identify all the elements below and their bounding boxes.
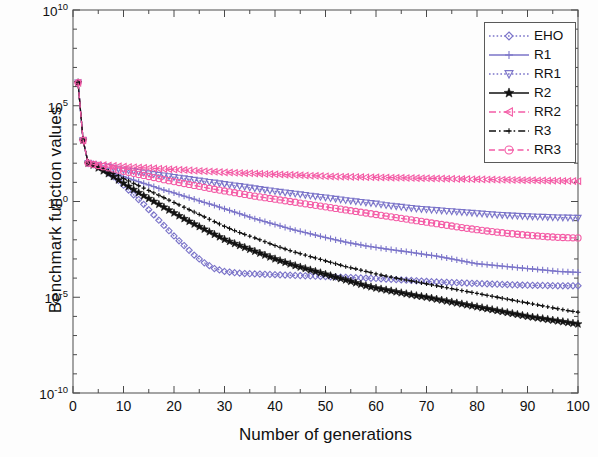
data-marker: [354, 267, 358, 271]
legend-item-rr2[interactable]: RR2: [487, 102, 573, 121]
data-marker: [500, 296, 504, 300]
data-marker: [232, 228, 236, 232]
data-marker: [485, 293, 489, 297]
data-marker: [338, 238, 344, 244]
data-marker: [297, 228, 303, 234]
legend-sample-r1: [487, 46, 531, 64]
data-marker: [343, 239, 349, 245]
data-marker: [413, 250, 419, 256]
x-tick-label: 20: [166, 398, 182, 414]
x-tick-label: 30: [217, 398, 233, 414]
data-marker: [146, 207, 152, 213]
data-marker: [182, 205, 186, 209]
data-marker: [186, 195, 192, 201]
data-marker: [292, 227, 298, 233]
data-marker: [258, 238, 262, 242]
data-marker: [192, 210, 196, 214]
data-marker: [434, 253, 440, 259]
data-marker: [358, 242, 364, 248]
data-marker: [460, 288, 464, 292]
data-marker: [293, 250, 297, 254]
data-marker: [505, 297, 509, 301]
data-marker: [388, 247, 394, 253]
data-marker: [439, 254, 445, 260]
legend-label: RR1: [534, 67, 561, 81]
legend-label: R1: [534, 48, 551, 62]
data-marker: [475, 291, 479, 295]
data-marker: [449, 256, 455, 262]
data-marker: [373, 244, 379, 250]
data-marker: [455, 287, 459, 291]
data-marker: [166, 188, 172, 194]
data-marker: [383, 246, 389, 252]
data-marker: [465, 289, 469, 293]
data-marker: [272, 221, 278, 227]
y-tick-label: 105: [48, 97, 68, 115]
x-axis-label: Number of generations: [73, 425, 578, 445]
data-marker: [490, 294, 494, 298]
data-marker: [307, 231, 313, 237]
legend-sample-r2: [487, 84, 531, 102]
chart-legend: EHOR1RR1R2RR2R3RR3: [484, 22, 576, 163]
data-marker: [278, 245, 282, 249]
y-tick-label: 10-5: [45, 288, 68, 306]
data-marker: [505, 51, 513, 59]
legend-item-rr3[interactable]: RR3: [487, 140, 573, 159]
data-marker: [535, 303, 539, 307]
data-marker: [444, 255, 450, 261]
legend-item-rr1[interactable]: RR1: [487, 64, 573, 83]
data-marker: [302, 229, 308, 235]
data-marker: [344, 264, 348, 268]
data-marker: [439, 285, 443, 289]
x-tick-label: 70: [419, 398, 435, 414]
data-marker: [575, 269, 581, 275]
data-marker: [459, 258, 465, 264]
data-marker: [359, 268, 363, 272]
x-tick-label: 90: [520, 398, 536, 414]
x-tick-label: 60: [368, 398, 384, 414]
data-marker: [348, 240, 354, 246]
data-marker: [423, 252, 429, 258]
data-marker: [418, 251, 424, 257]
data-marker: [197, 212, 201, 216]
data-marker: [273, 243, 277, 247]
x-tick-label: 10: [116, 398, 132, 414]
y-tick-label: 1010: [42, 1, 68, 19]
legend-item-r2[interactable]: R2: [487, 83, 573, 102]
legend-item-r3[interactable]: R3: [487, 121, 573, 140]
data-marker: [556, 307, 560, 311]
data-marker: [298, 252, 302, 256]
data-marker: [308, 254, 312, 258]
data-marker: [464, 259, 470, 265]
data-marker: [131, 181, 135, 185]
data-marker: [287, 226, 293, 232]
data-marker: [268, 241, 272, 245]
x-tick-label: 40: [267, 398, 283, 414]
data-marker: [202, 215, 206, 219]
legend-label: R2: [534, 86, 551, 100]
data-marker: [470, 290, 474, 294]
data-marker: [243, 232, 247, 236]
data-marker: [495, 295, 499, 299]
data-marker: [546, 305, 550, 309]
data-marker: [147, 188, 151, 192]
data-marker: [450, 286, 454, 290]
legend-label: R3: [534, 124, 551, 138]
data-marker: [206, 201, 212, 207]
data-marker: [212, 219, 216, 223]
data-marker: [504, 87, 514, 96]
data-marker: [288, 248, 292, 252]
legend-item-eho[interactable]: EHO: [487, 26, 573, 45]
x-tick-label: 80: [469, 398, 485, 414]
data-marker: [312, 232, 318, 238]
data-marker: [408, 249, 414, 255]
data-marker: [136, 184, 140, 188]
legend-label: RR3: [534, 143, 561, 157]
x-tick-label: 0: [69, 398, 77, 414]
data-marker: [445, 286, 449, 290]
legend-label: RR2: [534, 105, 561, 119]
data-marker: [525, 301, 529, 305]
data-marker: [257, 217, 263, 223]
data-marker: [369, 270, 373, 274]
legend-item-r1[interactable]: R1: [487, 45, 573, 64]
